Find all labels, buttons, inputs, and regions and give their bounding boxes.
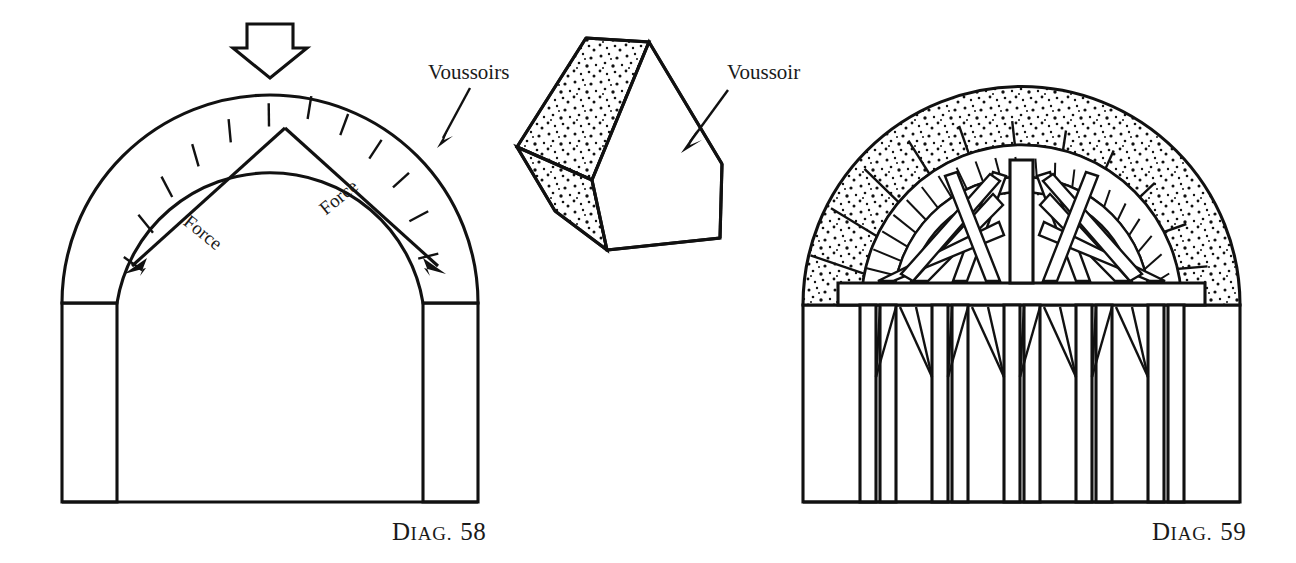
- tie-beam: [838, 283, 1205, 305]
- voussoir-label: Voussoir: [727, 60, 800, 85]
- voussoir-block-group: [517, 38, 728, 250]
- voussoirs-leader-arrow: [437, 88, 470, 148]
- caption-diag-59: DIAG.59: [1152, 518, 1246, 546]
- king-post: [1010, 160, 1033, 283]
- diagram-58-group: [62, 24, 478, 502]
- post: [1076, 305, 1092, 502]
- voussoirs-leader-head: [437, 127, 453, 148]
- post: [1168, 305, 1184, 502]
- figure-page: Voussoirs Voussoir Force Force DIAG.58 D…: [0, 0, 1296, 563]
- caption-number: 58: [460, 518, 486, 545]
- post: [932, 305, 948, 502]
- caption-smallcaps: IAG.: [411, 523, 453, 544]
- caption-smallcaps: IAG.: [1171, 523, 1213, 544]
- diagram-canvas: [0, 0, 1296, 563]
- caption-prefix: D: [1152, 518, 1171, 545]
- arch-piers: [62, 303, 478, 502]
- pier-left: [62, 303, 117, 502]
- pier-right: [423, 303, 478, 502]
- post: [860, 305, 876, 502]
- caption-diag-58: DIAG.58: [392, 518, 486, 546]
- load-arrow-icon: [233, 24, 307, 78]
- caption-prefix: D: [392, 518, 411, 545]
- post: [1004, 305, 1020, 502]
- diagram-59-group: [803, 86, 1240, 502]
- post: [1148, 305, 1164, 502]
- caption-number: 59: [1220, 518, 1246, 545]
- voussoir-leader-shaft: [690, 90, 728, 142]
- voussoirs-label: Voussoirs: [428, 60, 509, 85]
